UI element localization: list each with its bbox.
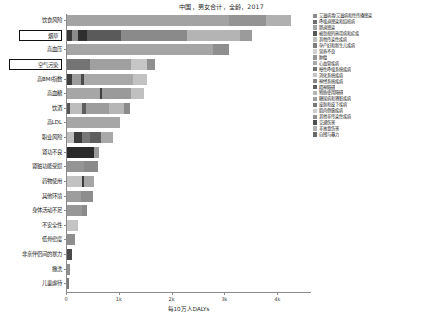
bar-segment[interactable] [67, 249, 72, 260]
category-label-身体活动不足[interactable]: 身体活动不足 [32, 204, 62, 217]
bar-segment[interactable] [67, 88, 100, 99]
stacked-bar[interactable] [67, 264, 70, 275]
stacked-bar[interactable] [67, 44, 229, 55]
stacked-bar[interactable] [67, 103, 130, 114]
stacked-bar[interactable] [67, 74, 147, 85]
bar-row[interactable]: 高BMI指数 [66, 73, 309, 86]
bar-segment[interactable] [67, 234, 75, 245]
category-label-饮食风险[interactable]: 饮食风险 [42, 14, 62, 27]
legend-item[interactable]: 其他非传染性疾病 [313, 114, 443, 120]
bar-segment[interactable] [94, 147, 99, 158]
category-label-空气污染[interactable]: 空气污染 [9, 59, 62, 70]
bar-row[interactable]: 饮酒 [66, 102, 309, 115]
bar-segment[interactable] [84, 161, 98, 172]
category-label-高血压[interactable]: 高血压 [47, 43, 62, 56]
stacked-bar[interactable] [67, 220, 78, 231]
bar-segment[interactable] [131, 88, 144, 99]
bar-segment[interactable] [213, 44, 229, 55]
bar-row[interactable]: 身体活动不足 [66, 204, 309, 217]
category-label-儿童虐待[interactable]: 儿童虐待 [42, 277, 62, 290]
bar-segment[interactable] [78, 30, 87, 41]
bar-row[interactable]: 饮食风险 [66, 14, 309, 27]
stacked-bar[interactable] [67, 117, 120, 128]
bar-segment[interactable] [67, 59, 90, 70]
stacked-bar[interactable] [67, 234, 75, 245]
category-label-药物使用[interactable]: 药物使用 [42, 175, 62, 188]
bar-segment[interactable] [229, 15, 266, 26]
bar-segment[interactable] [70, 103, 82, 114]
bar-row[interactable]: 儿童虐待 [66, 277, 309, 290]
bar-segment[interactable] [101, 132, 113, 143]
stacked-bar[interactable] [67, 205, 87, 216]
legend-item[interactable]: 物质使用障碍 [313, 90, 443, 96]
bar-segment[interactable] [147, 59, 155, 70]
bar-segment[interactable] [67, 117, 120, 128]
stacked-bar[interactable] [67, 59, 155, 70]
bar-segment[interactable] [67, 15, 229, 26]
bar-row[interactable]: 非亲伴侣间的暴力 [66, 248, 309, 261]
bar-row[interactable]: 烟草 [66, 29, 309, 42]
bar-row[interactable]: 高LDL [66, 116, 309, 129]
legend-item[interactable]: 肠道感染 [313, 25, 443, 31]
bar-segment[interactable] [72, 74, 82, 85]
bar-segment[interactable] [67, 44, 213, 55]
bar-segment[interactable] [86, 103, 109, 114]
stacked-bar[interactable] [67, 15, 291, 26]
category-label-非亲伴侣间的暴力[interactable]: 非亲伴侣间的暴力 [22, 248, 62, 261]
category-label-肾功不良[interactable]: 肾功不良 [42, 146, 62, 159]
legend-item[interactable]: 心血管疾病 [313, 61, 443, 67]
category-label-职业风险[interactable]: 职业风险 [42, 131, 62, 144]
bar-row[interactable]: 低骨密度 [66, 233, 309, 246]
category-label-肾脏功能受损[interactable]: 肾脏功能受损 [32, 160, 62, 173]
legend-item[interactable]: 皮肤和皮下疾病 [313, 102, 443, 108]
legend-item[interactable]: 其他传染性疾病 [313, 37, 443, 43]
stacked-bar[interactable] [67, 191, 93, 202]
category-label-饮酒[interactable]: 饮酒 [52, 102, 62, 115]
bar-segment[interactable] [131, 59, 146, 70]
legend-item[interactable]: 艾滋病毒/艾滋病和性传播感染 [313, 13, 443, 19]
category-label-其他环境[interactable]: 其他环境 [42, 190, 62, 203]
legend-item[interactable]: 消化系统疾病 [313, 72, 443, 78]
bar-row[interactable]: 空气污染 [66, 58, 309, 71]
legend-item[interactable]: 精神障碍 [313, 84, 443, 90]
legend-item[interactable]: 自残与暴力 [313, 132, 443, 138]
legend-item[interactable]: 糖尿病和肾脏疾病 [313, 96, 443, 102]
bar-row[interactable]: 高血糖 [66, 87, 309, 100]
category-label-高LDL[interactable]: 高LDL [47, 116, 62, 129]
bar-row[interactable]: 高血压 [66, 43, 309, 56]
bar-segment[interactable] [67, 264, 70, 275]
category-label-低骨密度[interactable]: 低骨密度 [42, 233, 62, 246]
legend-item[interactable]: 营养不良 [313, 49, 443, 55]
stacked-bar[interactable] [67, 30, 252, 41]
bar-segment[interactable] [82, 132, 90, 143]
bar-row[interactable]: 肾脏功能受损 [66, 160, 309, 173]
bar-segment[interactable] [266, 15, 291, 26]
bar-segment[interactable] [67, 176, 82, 187]
bar-segment[interactable] [74, 132, 81, 143]
legend-item[interactable]: 慢性呼吸系统疾病 [313, 66, 443, 72]
stacked-bar[interactable] [67, 249, 72, 260]
category-label-撒洗[interactable]: 撒洗 [52, 263, 62, 276]
bar-segment[interactable] [81, 191, 94, 202]
bar-segment[interactable] [240, 30, 253, 41]
legend-item[interactable]: 肌肉骨骼疾病 [313, 108, 443, 114]
bar-segment[interactable] [90, 59, 132, 70]
legend-item[interactable]: 呼吸道感染和结核病 [313, 19, 443, 25]
bar-segment[interactable] [90, 132, 101, 143]
legend-item[interactable]: 非故意伤害 [313, 126, 443, 132]
category-label-高血糖[interactable]: 高血糖 [47, 87, 62, 100]
bar-segment[interactable] [87, 30, 121, 41]
legend-item[interactable]: 神经系统疾病 [313, 78, 443, 84]
legend-item[interactable]: 交通伤害 [313, 120, 443, 126]
legend-item[interactable]: 孕产妇和新生儿疾病 [313, 43, 443, 49]
stacked-bar[interactable] [67, 278, 69, 289]
bar-segment[interactable] [67, 147, 94, 158]
stacked-bar[interactable] [67, 88, 144, 99]
bar-segment[interactable] [67, 278, 69, 289]
bar-segment[interactable] [67, 205, 82, 216]
category-label-不安全性[interactable]: 不安全性 [42, 219, 62, 232]
category-label-烟草[interactable]: 烟草 [19, 30, 62, 41]
bar-segment[interactable] [67, 191, 81, 202]
bar-row[interactable]: 其他环境 [66, 190, 309, 203]
bar-segment[interactable] [102, 88, 131, 99]
